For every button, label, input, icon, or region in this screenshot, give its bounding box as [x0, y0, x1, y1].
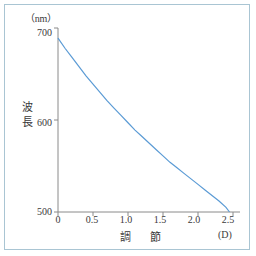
- y-axis-ticks: [54, 28, 58, 212]
- chart-plot-area: （nm） 波 長 700 600 500 0 0.5 1.0 1.5 2.0 2…: [0, 0, 256, 256]
- x-axis-ticks: [58, 212, 233, 216]
- chart-canvas: [0, 0, 256, 256]
- data-series-line: [58, 38, 230, 212]
